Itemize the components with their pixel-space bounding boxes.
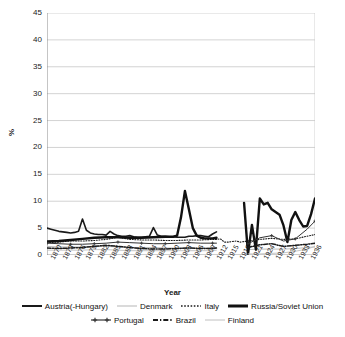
legend-label: Portugal	[114, 316, 144, 325]
legend-swatch	[91, 315, 111, 325]
legend-item[interactable]: Russia/Soviet Union	[228, 301, 323, 311]
y-tick-label: 35	[33, 63, 42, 71]
plot-svg	[47, 13, 315, 255]
legend-row-2: PortugalBrazilFinland	[0, 313, 345, 327]
legend-swatch	[22, 301, 42, 311]
legend-label: Finland	[228, 316, 254, 325]
legend-item[interactable]: Finland	[205, 315, 254, 325]
legend-label: Italy	[204, 302, 219, 311]
legend-item[interactable]: Austria(-Hungary)	[22, 301, 108, 311]
legend-item[interactable]: Portugal	[91, 315, 144, 325]
legend-label: Austria(-Hungary)	[45, 302, 108, 311]
legend-label: Russia/Soviet Union	[251, 302, 323, 311]
y-tick-label: 5	[38, 224, 42, 232]
legend-swatch	[181, 301, 201, 311]
x-axis-title: Year	[0, 288, 345, 297]
legend-swatch	[205, 315, 225, 325]
y-tick-label: 25	[33, 117, 42, 125]
legend-label: Brazil	[176, 316, 196, 325]
y-tick-label: 30	[33, 90, 42, 98]
y-tick-label: 45	[33, 9, 42, 17]
y-axis: 051015202530354045	[0, 0, 47, 255]
y-tick-label: 40	[33, 36, 42, 44]
series-line	[47, 191, 216, 242]
legend-item[interactable]: Brazil	[153, 315, 196, 325]
chart-container: 051015202530354045 % 1870187318761879188…	[0, 0, 345, 337]
y-tick-label: 0	[38, 251, 42, 259]
y-axis-title: %	[7, 129, 16, 136]
legend-swatch	[117, 301, 137, 311]
legend-item[interactable]: Denmark	[117, 301, 172, 311]
legend-row-1: Austria(-Hungary)DenmarkItalyRussia/Sovi…	[0, 299, 345, 313]
legend-swatch	[153, 315, 173, 325]
legend-label: Denmark	[140, 302, 172, 311]
chart-legend: Austria(-Hungary)DenmarkItalyRussia/Sovi…	[0, 299, 345, 327]
y-tick-label: 15	[33, 170, 42, 178]
legend-item[interactable]: Italy	[181, 301, 219, 311]
y-tick-label: 20	[33, 143, 42, 151]
series-line	[47, 242, 216, 244]
y-tick-label: 10	[33, 197, 42, 205]
plot-area	[47, 13, 315, 255]
legend-swatch	[228, 301, 248, 311]
